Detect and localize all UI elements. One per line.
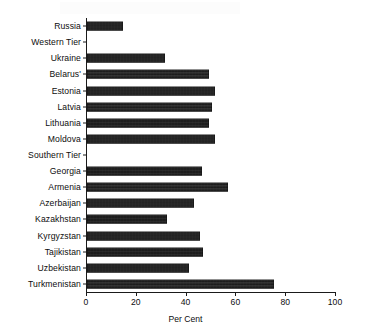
y-axis-tick [83, 283, 86, 284]
x-axis-tick [335, 292, 336, 296]
y-axis-tick [83, 58, 86, 59]
y-axis-tick [83, 90, 86, 91]
y-axis-tick [83, 267, 86, 268]
category-label: Georgia [50, 167, 81, 176]
bar-row: Lithuania [86, 115, 335, 131]
y-axis-tick [83, 251, 86, 252]
x-axis-tick [136, 292, 137, 296]
x-axis-tick-label: 100 [328, 298, 342, 307]
category-label: Azerbaijan [39, 199, 81, 208]
y-axis-tick [83, 203, 86, 204]
category-label: Ukraine [51, 54, 81, 63]
bar [87, 279, 274, 288]
bar-row: Western Tier [86, 34, 335, 50]
bar [87, 22, 123, 31]
bar-row: Georgia [86, 163, 335, 179]
bar [87, 54, 165, 63]
bar-row: Ukraine [86, 50, 335, 66]
category-label: Kyrgyzstan [37, 231, 81, 240]
x-axis-tick-label: 60 [231, 298, 241, 307]
bar-row: Tajikistan [86, 244, 335, 260]
bar-row: Latvia [86, 99, 335, 115]
category-label: Latvia [57, 102, 81, 111]
bar-row: Uzbekistan [86, 260, 335, 276]
x-axis-tick [285, 292, 286, 296]
y-axis-tick [83, 187, 86, 188]
category-label: Western Tier [31, 38, 81, 47]
category-label: Armenia [48, 183, 81, 192]
x-axis-tick-label: 20 [131, 298, 141, 307]
category-label: Moldova [48, 135, 81, 144]
category-label: Tajikistan [45, 247, 81, 256]
y-axis-tick [83, 154, 86, 155]
category-label: Estonia [52, 86, 81, 95]
bar [87, 167, 202, 176]
x-axis-tick [186, 292, 187, 296]
bar [87, 183, 228, 192]
bar [87, 134, 215, 143]
bar-row: Belarus' [86, 66, 335, 82]
x-axis-title: Per Cent [0, 315, 371, 324]
y-axis-tick [83, 74, 86, 75]
y-axis-tick [83, 26, 86, 27]
bar-row: Estonia [86, 82, 335, 98]
bar [87, 215, 167, 224]
y-axis-tick [83, 122, 86, 123]
plot-area: RussiaWestern TierUkraineBelarus'Estonia… [86, 18, 335, 292]
bar [87, 102, 212, 111]
bar [87, 86, 215, 95]
bar [87, 118, 209, 127]
bar-row: Moldova [86, 131, 335, 147]
category-label: Southern Tier [28, 151, 81, 160]
category-label: Belarus' [49, 70, 81, 79]
x-axis-tick-label: 0 [84, 298, 89, 307]
bar [87, 231, 200, 240]
bar-row: Southern Tier [86, 147, 335, 163]
bar-row: Azerbaijan [86, 195, 335, 211]
bar [87, 263, 189, 272]
bar-chart: RussiaWestern TierUkraineBelarus'Estonia… [0, 0, 371, 333]
y-axis-tick [83, 171, 86, 172]
scan-artifact [60, 2, 240, 14]
category-label: Kazakhstan [35, 215, 81, 224]
category-label: Russia [54, 22, 81, 31]
y-axis-tick [83, 138, 86, 139]
bar [87, 70, 209, 79]
bar-row: Russia [86, 18, 335, 34]
y-axis-tick [83, 235, 86, 236]
y-axis-tick [83, 219, 86, 220]
bar [87, 247, 203, 256]
bar [87, 199, 194, 208]
bar-row: Kyrgyzstan [86, 228, 335, 244]
y-axis-tick [83, 106, 86, 107]
x-axis-tick-label: 80 [280, 298, 290, 307]
x-axis-tick-label: 40 [181, 298, 191, 307]
bar-row: Turkmenistan [86, 276, 335, 292]
y-axis-tick [83, 42, 86, 43]
bar-row: Kazakhstan [86, 211, 335, 227]
category-label: Turkmenistan [28, 280, 81, 289]
x-axis-line [86, 292, 336, 293]
x-axis-tick [86, 292, 87, 296]
bar-row: Armenia [86, 179, 335, 195]
category-label: Uzbekistan [37, 264, 81, 273]
category-label: Lithuania [45, 118, 81, 127]
x-axis-tick [235, 292, 236, 296]
